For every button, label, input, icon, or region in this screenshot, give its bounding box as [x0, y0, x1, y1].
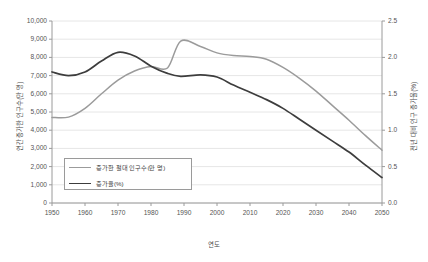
legend-item-growth-rate: 증가율(%) [65, 175, 191, 191]
y-axis-right-tick-label: 0.0 [388, 199, 428, 206]
y-axis-left-tick-label: 7,000 [7, 72, 47, 79]
plot-svg [0, 0, 428, 262]
y-axis-left-tick-label: 5,000 [7, 108, 47, 115]
legend-swatch-icon [69, 183, 91, 184]
y-axis-left-tick-label: 9,000 [7, 35, 47, 42]
y-axis-right-tick-label: 0.5 [388, 163, 428, 170]
legend-item-absolute-increase: 증가한 절대 인구수(만 명) [65, 159, 191, 175]
y-axis-right-tick-label: 2.0 [388, 53, 428, 60]
legend-swatch-icon [69, 167, 91, 168]
y-axis-left-tick-label: 10,000 [7, 17, 47, 24]
population-growth-chart: 연간 증가한 인구수(만 명) 전년 대비 인구 증가율(%) 연도 01,00… [0, 0, 428, 262]
legend: 증가한 절대 인구수(만 명) 증가율(%) [64, 158, 192, 190]
y-axis-left-tick-label: 0 [7, 199, 47, 206]
y-axis-left-tick-label: 8,000 [7, 53, 47, 60]
y-axis-left-tick-label: 6,000 [7, 90, 47, 97]
y-axis-left-tick-label: 1,000 [7, 181, 47, 188]
y-axis-left-tick-label: 4,000 [7, 126, 47, 133]
x-axis-tick-label: 2050 [362, 209, 402, 216]
y-axis-right-tick-label: 1.0 [388, 126, 428, 133]
y-axis-left-tick-label: 2,000 [7, 163, 47, 170]
series-line-absolute-increase [52, 40, 382, 150]
y-axis-right-tick-label: 1.5 [388, 90, 428, 97]
legend-label: 증가율(%) [96, 179, 124, 188]
y-axis-right-tick-label: 2.5 [388, 17, 428, 24]
legend-label: 증가한 절대 인구수(만 명) [96, 163, 165, 172]
y-axis-left-tick-label: 3,000 [7, 144, 47, 151]
